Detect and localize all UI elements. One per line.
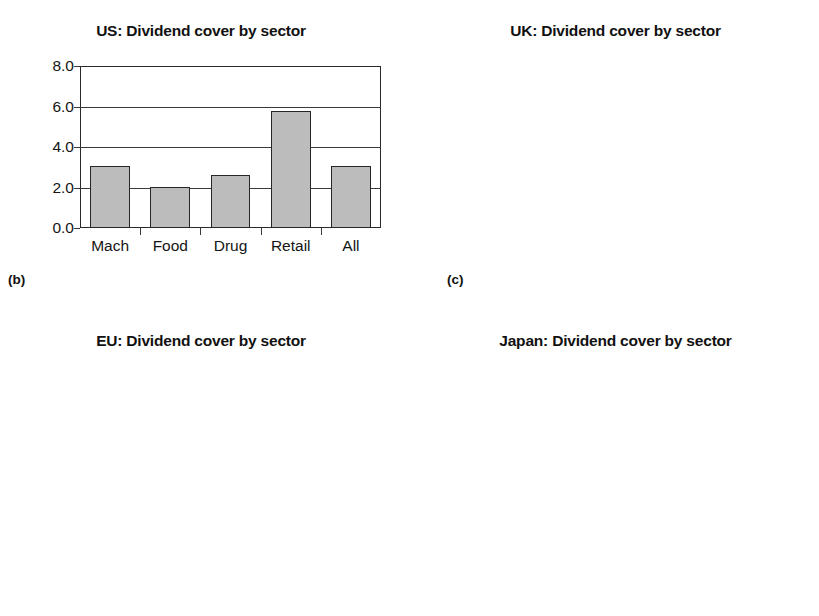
bar-food: [150, 187, 190, 229]
bar-slot: [321, 66, 381, 228]
x-axis-label-all: All: [321, 237, 381, 255]
x-axis-label-drug: Drug: [200, 237, 260, 255]
bar-slot: [200, 66, 260, 228]
chart-panel-us: US: Dividend cover by sector MachFoodDru…: [0, 0, 440, 310]
y-axis-tick-label: 0.0: [30, 219, 74, 237]
chart-panel-eu: EU: Dividend cover by sector MachFoodDru…: [0, 310, 440, 616]
y-axis-tick-label: 2.0: [30, 179, 74, 197]
panel-label-b: (b): [8, 272, 25, 287]
x-axis-label-food: Food: [140, 237, 200, 255]
chart-title-eu: EU: Dividend cover by sector: [0, 332, 402, 350]
y-axis-tick-mark: [74, 228, 80, 229]
x-axis-tick-mark: [200, 228, 201, 235]
bar-slot: [80, 66, 140, 228]
figure-panel-grid: US: Dividend cover by sector MachFoodDru…: [0, 0, 819, 616]
y-axis-tick-label: 6.0: [30, 98, 74, 116]
bar-mach: [90, 166, 130, 228]
plot-wrap-us: MachFoodDrugRetailAll: [80, 66, 381, 228]
bar-slot: [261, 66, 321, 228]
x-axis-label-mach: Mach: [80, 237, 140, 255]
panel-label-c: (c): [447, 272, 464, 287]
bar-all: [331, 166, 371, 228]
chart-title-japan: Japan: Dividend cover by sector: [440, 332, 791, 350]
y-axis-tick-label: 8.0: [30, 57, 74, 75]
chart-panel-japan: Japan: Dividend cover by sector MachFood…: [440, 310, 819, 616]
x-axis-tick-mark: [321, 228, 322, 235]
bar-retail: [271, 111, 311, 228]
bar-slot: [140, 66, 200, 228]
x-axis-label-retail: Retail: [261, 237, 321, 255]
x-axis-tick-mark: [140, 228, 141, 235]
bars-layer: [80, 66, 381, 228]
x-axis-tick-mark: [261, 228, 262, 235]
chart-panel-uk: UK: Dividend cover by sector MachFoodDru…: [440, 0, 819, 310]
y-axis-tick-label: 4.0: [30, 138, 74, 156]
x-axis-labels: MachFoodDrugRetailAll: [80, 237, 381, 255]
bar-drug: [211, 175, 251, 228]
chart-title-us: US: Dividend cover by sector: [0, 22, 402, 40]
chart-title-uk: UK: Dividend cover by sector: [440, 22, 791, 40]
